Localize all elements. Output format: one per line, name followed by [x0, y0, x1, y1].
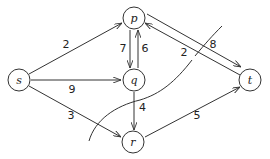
- label-q-r: 4: [139, 101, 146, 114]
- label-t-p: 2: [181, 46, 188, 59]
- label-q-p: 6: [142, 42, 149, 55]
- svg-text:p: p: [130, 12, 137, 25]
- label-p-q: 7: [120, 42, 127, 55]
- edge-t-p: [145, 23, 240, 75]
- svg-text:r: r: [130, 136, 136, 149]
- edge-p-t: [147, 14, 241, 67]
- label-s-q: 9: [69, 83, 76, 96]
- node-s: s: [8, 69, 30, 91]
- node-t: t: [239, 69, 261, 91]
- svg-text:q: q: [130, 74, 137, 87]
- cut-curve: [89, 26, 222, 141]
- node-r: r: [122, 131, 144, 153]
- svg-text:t: t: [248, 74, 253, 87]
- edge-r-t: [145, 87, 240, 137]
- svg-text:s: s: [16, 74, 22, 87]
- flow-network-diagram: s p q r t 2 9 3 7 6 8 2 4 5: [0, 0, 270, 159]
- label-s-p: 2: [63, 38, 70, 51]
- node-q: q: [123, 69, 145, 91]
- edge-s-p: [29, 23, 122, 74]
- label-s-r: 3: [68, 109, 75, 122]
- label-p-t: 8: [210, 38, 217, 51]
- node-p: p: [123, 7, 145, 29]
- label-r-t: 5: [194, 109, 201, 122]
